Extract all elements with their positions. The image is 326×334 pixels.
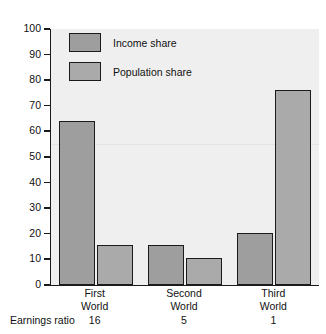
legend-label-income-share: Income share	[113, 37, 177, 49]
y-tick-label: 20	[29, 227, 41, 240]
y-tick-label: 40	[29, 176, 41, 189]
y-axis-ticks: 0102030405060708090100	[0, 0, 50, 334]
plot-area: Income share Population share	[50, 29, 319, 286]
chart-legend: Income share Population share	[69, 33, 192, 91]
bar-income-share	[237, 233, 273, 285]
x-label-line1: First	[84, 287, 104, 299]
bar-income-share	[59, 121, 95, 285]
y-tick-label: 100	[23, 22, 41, 35]
x-label-line1: Third	[261, 287, 285, 299]
x-axis-group-label: ThirdWorld	[228, 287, 318, 312]
legend-swatch-income-share	[69, 33, 101, 52]
x-label-line2: World	[139, 300, 229, 313]
y-tick-label: 10	[29, 252, 41, 265]
y-tick-label: 90	[29, 48, 41, 61]
legend-label-population-share: Population share	[113, 66, 192, 78]
x-label-line1: Second	[166, 287, 202, 299]
y-tick-label: 60	[29, 124, 41, 137]
x-axis-group-label: FirstWorld	[50, 287, 140, 312]
earnings-ratio-row-label: Earnings ratio	[10, 314, 75, 326]
bar-population-share	[275, 90, 311, 285]
legend-swatch-population-share	[69, 62, 101, 81]
bar-chart-figure: of World Regions Percent 010203040506070…	[0, 0, 326, 334]
y-tick-label: 70	[29, 99, 41, 112]
y-tick-label: 30	[29, 201, 41, 214]
earnings-ratio-value: 1	[228, 314, 318, 326]
bar-population-share	[97, 245, 133, 285]
x-label-line2: World	[50, 300, 140, 313]
bar-population-share	[186, 258, 222, 285]
x-label-line2: World	[228, 300, 318, 313]
x-axis-labels: FirstWorld16SecondWorld5ThirdWorld1	[0, 287, 326, 334]
legend-item-population-share: Population share	[69, 62, 192, 81]
x-axis-group-label: SecondWorld	[139, 287, 229, 312]
bar-income-share	[148, 245, 184, 285]
y-tick-label: 80	[29, 73, 41, 86]
legend-item-income-share: Income share	[69, 33, 192, 52]
y-tick-label: 50	[29, 150, 41, 163]
earnings-ratio-value: 5	[139, 314, 229, 326]
